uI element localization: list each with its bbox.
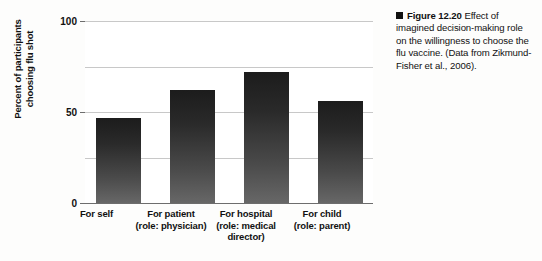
bar-for-self bbox=[96, 118, 141, 204]
x-tick-label-for-patient-line-2: (role: physician) bbox=[130, 220, 212, 232]
gridline-75 bbox=[85, 67, 373, 68]
bar-chart: Percent of participants choosing flu sho… bbox=[0, 0, 380, 261]
y-axis-title-line-1: Percent of participants bbox=[12, 0, 24, 149]
x-tick-label-for-child-line-1: For child bbox=[282, 208, 362, 220]
x-tick-label-for-hospital-line-2: (role: medical bbox=[207, 220, 285, 232]
y-tick-label-50: 50 bbox=[66, 107, 77, 118]
gridline-100 bbox=[85, 21, 373, 22]
figure-page: Percent of participants choosing flu sho… bbox=[0, 0, 542, 261]
y-axis-title: Percent of participants choosing flu sho… bbox=[12, 0, 46, 149]
y-tick-label-0: 0 bbox=[71, 197, 77, 208]
y-tick-mark-100 bbox=[80, 21, 85, 22]
plot-area: 100 50 0 bbox=[85, 21, 373, 203]
x-tick-label-for-patient: For patient (role: physician) bbox=[130, 208, 212, 231]
x-tick-label-for-self-line-1: For self bbox=[58, 208, 135, 220]
x-tick-label-for-self: For self bbox=[58, 208, 135, 220]
bar-for-child bbox=[318, 101, 363, 203]
x-tick-label-for-hospital-line-1: For hospital bbox=[207, 208, 285, 220]
bar-for-patient bbox=[170, 90, 215, 203]
y-tick-mark-50 bbox=[80, 112, 85, 113]
x-tick-label-for-child: For child (role: parent) bbox=[282, 208, 362, 231]
bar-for-hospital bbox=[244, 72, 289, 203]
square-bullet-icon bbox=[396, 12, 403, 19]
x-tick-label-for-patient-line-1: For patient bbox=[130, 208, 212, 220]
figure-caption-label: Figure 12.20 bbox=[407, 10, 462, 21]
x-tick-label-for-hospital: For hospital (role: medical director) bbox=[207, 208, 285, 243]
y-tick-mark-0 bbox=[80, 203, 85, 204]
figure-caption: Figure 12.20 Effect of imagined decision… bbox=[396, 10, 532, 72]
x-tick-label-for-child-line-2: (role: parent) bbox=[282, 220, 362, 232]
y-tick-label-100: 100 bbox=[60, 16, 77, 27]
x-tick-label-for-hospital-line-3: director) bbox=[207, 231, 285, 243]
y-axis-title-line-2: choosing flu shot bbox=[24, 0, 36, 149]
